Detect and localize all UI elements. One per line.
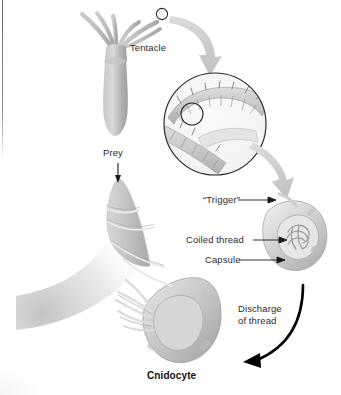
label-discharge-line2: of thread: [238, 315, 276, 326]
label-cnidocyte: Cnidocyte: [147, 370, 196, 381]
leader-trigger: [238, 197, 276, 203]
label-tentacle: Tentacle: [130, 42, 166, 53]
label-discharge-line1: Discharge: [238, 303, 282, 314]
cnidocyte-discharged: [116, 278, 221, 363]
zoom-arrow-inset-to-cnidocyte: [249, 142, 294, 199]
hydra-column: [103, 58, 128, 136]
cnidocyte-diagram: Tentacle Prey “Trigger” Coiled thread Ca…: [0, 0, 341, 395]
label-capsule: Capsule: [205, 254, 241, 265]
hydra-polyp: [82, 13, 160, 136]
leader-capsule: [239, 257, 285, 263]
label-coiled-thread: Coiled thread: [186, 234, 244, 245]
zoom-arrow-tentacle-to-inset: [169, 16, 222, 76]
cnidocyte-undischarged: [263, 194, 327, 271]
scan-corner-shadow: [0, 369, 42, 395]
discharge-arrow: [243, 285, 303, 368]
hydra-collar: [104, 58, 126, 65]
magnified-tentacle-circle: [160, 73, 268, 175]
label-trigger: “Trigger”: [203, 194, 240, 205]
label-prey: Prey: [103, 147, 123, 158]
tentacle-tip-marker: [156, 8, 167, 19]
scan-edge-artifact: [2, 0, 3, 160]
diagram-canvas: [0, 0, 341, 395]
